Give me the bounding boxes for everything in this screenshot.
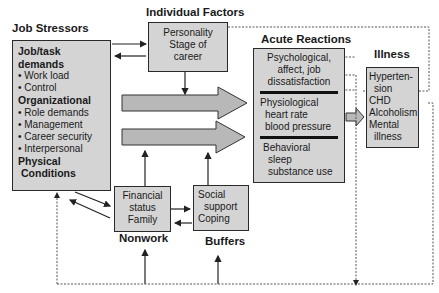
item-management: • Management bbox=[18, 119, 105, 131]
illness-title: Illness bbox=[374, 48, 410, 60]
line: illness bbox=[369, 131, 416, 143]
buffers-box: Social support Coping bbox=[193, 185, 249, 231]
dashed-arrowhead-bottom bbox=[353, 280, 359, 286]
heading-physical: Physical bbox=[18, 155, 105, 168]
acute-reactions-box: Psychological, affect, job dissatisfacti… bbox=[253, 48, 345, 183]
line: Alcoholism bbox=[369, 107, 416, 119]
acute-reactions-title: Acute Reactions bbox=[261, 33, 351, 45]
nonwork-title: Nonwork bbox=[119, 232, 168, 244]
line: Hyperten- bbox=[369, 71, 416, 83]
item-role-demands: • Role demands bbox=[18, 107, 105, 119]
line: support bbox=[198, 201, 244, 213]
divider bbox=[260, 136, 338, 139]
line: affect, job bbox=[260, 64, 338, 76]
buffers-title: Buffers bbox=[205, 235, 245, 247]
individual-factors-title: Individual Factors bbox=[146, 6, 244, 18]
job-stressors-box: Job/task demands • Work load • Control O… bbox=[12, 40, 111, 191]
arrow-nonwork-to-stressors bbox=[70, 200, 110, 218]
line: Social bbox=[198, 189, 244, 201]
dashed-arrowhead-stressors bbox=[54, 192, 60, 198]
item-workload: • Work load bbox=[18, 70, 105, 82]
line: Family bbox=[115, 214, 170, 226]
line: CHD bbox=[369, 95, 416, 107]
item-career-security: • Career security bbox=[18, 131, 105, 143]
heading-job-task: Job/task demands bbox=[18, 45, 105, 70]
heading-conditions: Conditions bbox=[18, 167, 105, 180]
line: Behavioral bbox=[260, 142, 338, 154]
line: substance use bbox=[260, 166, 338, 178]
line: Mental bbox=[369, 119, 416, 131]
divider bbox=[260, 91, 338, 94]
nonwork-box: Financial status Family bbox=[114, 186, 171, 232]
job-stressors-title: Job Stressors bbox=[12, 22, 89, 34]
line: status bbox=[115, 202, 170, 214]
line: Physiological bbox=[260, 97, 338, 109]
individual-factors-box: Personality Stage of career bbox=[148, 22, 228, 72]
section-physiological: Physiological heart rate blood pressure bbox=[260, 97, 338, 133]
block-arrow-lower bbox=[122, 121, 245, 153]
line-career: career bbox=[149, 51, 227, 63]
section-psychological: Psychological, affect, job dissatisfacti… bbox=[260, 52, 338, 88]
line: Financial bbox=[115, 190, 170, 202]
line: heart rate bbox=[260, 109, 338, 121]
line: Coping bbox=[198, 213, 244, 225]
illness-box: Hyperten- sion CHD Alcoholism Mental ill… bbox=[366, 67, 419, 148]
line-stage-of: Stage of bbox=[149, 39, 227, 51]
line: blood pressure bbox=[260, 121, 338, 133]
arrow-stressors-to-nonwork bbox=[75, 192, 110, 206]
line-personality: Personality bbox=[149, 27, 227, 39]
heading-organizational: Organizational bbox=[18, 94, 105, 107]
block-arrow-acute-to-illness bbox=[346, 108, 364, 126]
line: sleep bbox=[260, 154, 338, 166]
line: Psychological, bbox=[260, 52, 338, 64]
line: dissatisfaction bbox=[260, 76, 338, 88]
item-control: • Control bbox=[18, 82, 105, 94]
line: sion bbox=[369, 83, 416, 95]
item-interpersonal: • Interpersonal bbox=[18, 143, 105, 155]
section-behavioral: Behavioral sleep substance use bbox=[260, 142, 338, 178]
